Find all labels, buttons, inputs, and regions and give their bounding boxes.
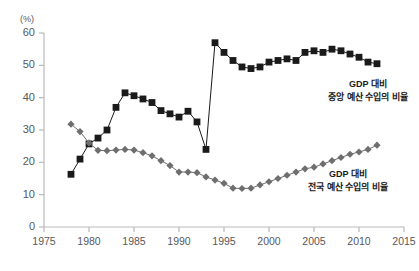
data-point-marker [212,39,219,46]
y-axis-tick-label: 50 [2,58,35,70]
data-point-marker [175,168,182,175]
data-point-marker [328,157,335,164]
data-point-marker [320,49,327,56]
data-point-marker [184,168,191,175]
x-axis-tick-label: 1990 [154,235,204,247]
data-point-marker [176,114,183,121]
data-point-marker [157,157,164,164]
data-point-marker [158,107,165,114]
data-point-marker [239,64,246,71]
data-point-marker [167,110,174,117]
data-point-marker [194,119,201,126]
data-point-marker [211,177,218,184]
data-point-marker [284,55,291,62]
data-point-marker [122,89,129,96]
x-axis-tick-label: 1975 [19,235,69,247]
data-point-marker [113,104,120,111]
data-point-marker [338,47,345,54]
data-point-marker [68,171,75,178]
data-point-marker [221,49,228,56]
data-point-marker [293,57,300,64]
data-point-marker [166,162,173,169]
x-axis-tick-label: 2015 [379,235,419,247]
data-point-marker [238,185,245,192]
data-point-marker [140,96,147,103]
x-axis-tick-label: 1980 [64,235,114,247]
data-point-marker [347,51,354,58]
data-point-marker [248,65,255,72]
data-point-marker [329,46,336,53]
data-point-marker [355,148,362,155]
y-axis-tick-label: 40 [2,91,35,103]
data-point-marker [229,185,236,192]
series-annotation-national-budget-revenue: GDP 대비전국 예산 수입의 비율 [308,168,388,194]
data-point-marker [149,99,156,106]
y-axis-tick-label: 10 [2,188,35,200]
data-point-marker [266,59,273,66]
series-annotation-central-budget-revenue: GDP 대비중앙 예산 수입의 비율 [328,78,408,104]
y-axis-tick-label: 60 [2,26,35,38]
data-point-marker [256,181,263,188]
data-point-marker [364,146,371,153]
data-point-marker [121,146,128,153]
data-point-marker [193,169,200,176]
x-axis-tick-label: 2005 [289,235,339,247]
data-point-marker [77,156,84,163]
data-point-marker [292,168,299,175]
chart-container: (%) 0102030405060 1975198019851990199520… [0,0,419,271]
data-point-marker [103,147,110,154]
data-point-marker [203,146,210,153]
annotation-line: GDP 대비 [308,168,388,181]
data-point-marker [148,152,155,159]
annotation-line: GDP 대비 [328,78,408,91]
data-point-marker [346,151,353,158]
data-point-marker [265,178,272,185]
data-point-marker [311,47,318,54]
annotation-line: 중앙 예산 수입의 비율 [328,91,408,104]
data-point-marker [112,146,119,153]
data-point-marker [373,142,380,149]
x-axis-tick-label: 2010 [334,235,384,247]
annotation-line: 전국 예산 수입의 비율 [308,181,388,194]
data-point-marker [131,92,138,99]
data-point-marker [130,146,137,153]
data-point-marker [104,127,111,134]
data-point-marker [202,173,209,180]
x-axis-tick-label: 1985 [109,235,159,247]
data-point-marker [337,154,344,161]
data-point-marker [220,180,227,187]
y-axis-tick-label: 20 [2,155,35,167]
data-point-marker [356,54,363,61]
data-point-marker [230,57,237,64]
data-point-marker [139,149,146,156]
data-point-marker [185,108,192,115]
y-axis-tick-label: 30 [2,123,35,135]
x-axis-tick-label: 1995 [199,235,249,247]
data-point-marker [319,160,326,167]
data-point-marker [275,57,282,64]
data-point-marker [365,59,372,66]
data-point-marker [302,49,309,56]
y-axis-tick-label: 0 [2,220,35,232]
data-point-marker [247,185,254,192]
x-axis-tick-label: 2000 [244,235,294,247]
data-point-marker [257,64,264,71]
chart-plot-area [0,0,419,271]
data-point-marker [274,175,281,182]
data-point-marker [374,60,381,67]
data-point-marker [95,135,102,142]
data-point-marker [283,172,290,179]
